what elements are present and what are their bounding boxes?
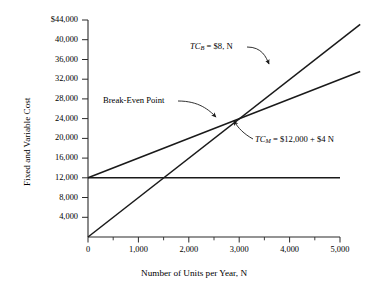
y-tick-label: 32,000 bbox=[32, 75, 78, 83]
y-tick-label: 16,000 bbox=[32, 154, 78, 162]
x-tick-label: 0 bbox=[86, 246, 90, 254]
tcm-annotation: TCM = $12,000 + $4 N bbox=[255, 134, 334, 144]
tcb-leader-arrow bbox=[247, 47, 269, 64]
series-line-tcb bbox=[88, 24, 360, 237]
y-tick-label: 4,000 bbox=[32, 213, 78, 221]
y-tick-label: 20,000 bbox=[32, 134, 78, 142]
series-line-tcm bbox=[88, 72, 360, 178]
tcm-annotation-prefix: TC bbox=[255, 134, 266, 144]
y-tick-label: 36,000 bbox=[32, 55, 78, 63]
x-tick-label: 5,000 bbox=[331, 246, 350, 254]
x-tick-label: 3,000 bbox=[230, 246, 249, 254]
tcm-leader-arrow bbox=[234, 121, 253, 139]
y-tick-label: 8,000 bbox=[32, 193, 78, 201]
x-tick-label: 2,000 bbox=[179, 246, 198, 254]
y-tick-label: 12,000 bbox=[32, 174, 78, 182]
tcb-annotation-prefix: TC bbox=[190, 41, 201, 51]
y-axis-ticks bbox=[82, 20, 88, 217]
y-tick-label: $44,000 bbox=[32, 16, 78, 24]
x-tick-label: 4,000 bbox=[280, 246, 299, 254]
y-tick-label: 40,000 bbox=[32, 35, 78, 43]
x-tick-label: 1,000 bbox=[129, 246, 148, 254]
y-axis-title: Fixed and Variable Cost bbox=[22, 98, 32, 186]
y-tick-label: 24,000 bbox=[32, 114, 78, 122]
tcb-annotation-suffix: = $8, N bbox=[204, 41, 232, 51]
tcm-annotation-suffix: = $12,000 + $4 N bbox=[271, 134, 334, 144]
break-even-chart: $44,000 40,000 36,000 32,000 28,000 24,0… bbox=[0, 0, 377, 291]
tcb-annotation: TCB = $8, N bbox=[190, 41, 233, 51]
x-axis-title: Number of Units per Year, N bbox=[141, 268, 247, 278]
y-tick-label: 28,000 bbox=[32, 95, 78, 103]
break-even-leader-arrow bbox=[178, 101, 216, 117]
break-even-annotation: Break-Even Point bbox=[103, 95, 164, 105]
